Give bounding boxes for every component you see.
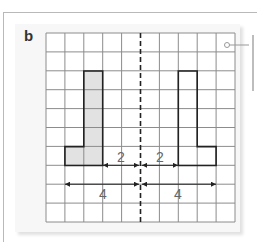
dim-label-right-long: 4: [174, 186, 182, 202]
side-margin-bar: [252, 35, 254, 91]
dim-label-left-long: 4: [99, 186, 107, 202]
dim-label-right-short: 2: [156, 149, 164, 165]
dim-label-left-short: 2: [117, 149, 125, 165]
reflection-grid-diagram: 2 2 4 4: [0, 0, 257, 242]
callout-dot-icon: [225, 43, 230, 48]
